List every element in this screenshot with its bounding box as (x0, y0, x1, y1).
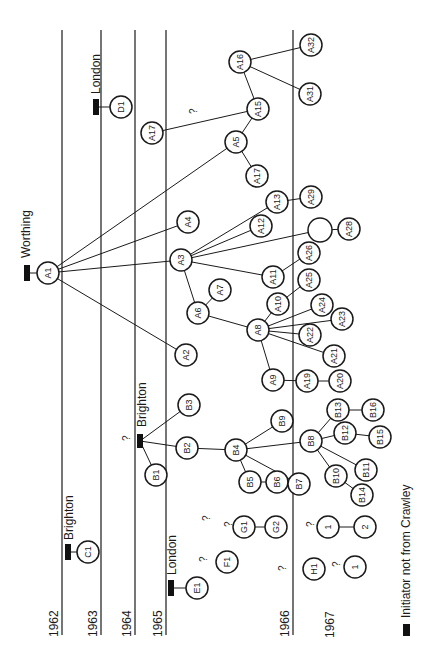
network-diagram: A1A2A3A4A5A6A7A8A9A10A11A12A13A15A16A17A… (0, 0, 423, 663)
svg-text:D1: D1 (116, 101, 126, 113)
svg-text:B6: B6 (272, 476, 282, 487)
svg-text:A24: A24 (317, 297, 327, 313)
year-label: 1962 (47, 610, 61, 637)
node-A12: A12 (250, 215, 272, 237)
node-B3: B3 (178, 394, 200, 416)
svg-text:B13: B13 (333, 402, 343, 418)
svg-text:B12: B12 (340, 425, 350, 441)
node-B6: B6 (266, 471, 288, 493)
svg-text:A26: A26 (304, 245, 314, 261)
unknown-marker: ? (331, 561, 342, 567)
node-B1: B1 (145, 464, 167, 486)
svg-text:A19: A19 (302, 373, 312, 389)
svg-text:A9: A9 (268, 374, 278, 385)
node-A17: A17 (141, 122, 163, 144)
year-label: 1966 (278, 610, 292, 637)
svg-text:B14: B14 (357, 487, 367, 503)
node-B15: B15 (369, 426, 391, 448)
edge (152, 109, 258, 133)
node-B9: B9 (271, 410, 293, 432)
svg-text:B8: B8 (306, 435, 316, 446)
edge (258, 319, 342, 330)
svg-text:A15: A15 (253, 101, 263, 117)
svg-text:A32: A32 (306, 37, 316, 53)
unknown-marker: ? (188, 108, 199, 114)
node-A32: A32 (300, 34, 322, 56)
node-A16: A16 (229, 51, 251, 73)
edge (48, 142, 236, 273)
node-D1: D1 (110, 96, 132, 118)
svg-text:1: 1 (350, 564, 360, 569)
origin-label: London (165, 535, 179, 575)
node-C1: C1 (77, 541, 99, 563)
svg-text:A10: A10 (273, 296, 283, 312)
origin-label: Brighton (62, 495, 76, 540)
node-B7: B7 (288, 473, 310, 495)
svg-text:B9: B9 (277, 415, 287, 426)
unknown-marker: ? (198, 556, 209, 562)
node-A6: A6 (187, 302, 209, 324)
legend-marker-icon (403, 624, 410, 636)
edge (48, 260, 181, 273)
svg-text:A1: A1 (43, 267, 53, 278)
node-A23: A23 (331, 308, 353, 330)
node-A9: A9 (262, 369, 284, 391)
edge (48, 222, 188, 273)
node-B4: B4 (225, 439, 247, 461)
node-A2: A2 (175, 344, 197, 366)
node-A21: A21 (323, 345, 345, 367)
svg-text:B1: B1 (151, 469, 161, 480)
node-A22: A22 (299, 324, 321, 346)
legend-label: Initiator not from Crawley (399, 485, 413, 618)
initiator-marker-icon (137, 434, 143, 448)
node-A25: A25 (298, 269, 320, 291)
node-B8: B8 (300, 430, 322, 452)
initiator-markers (24, 99, 174, 596)
origin-label: Worthing (19, 210, 33, 258)
svg-text:C1: C1 (83, 546, 93, 558)
edge (181, 260, 273, 277)
node-G2: G2 (265, 516, 287, 538)
node-B11: B11 (355, 459, 377, 481)
svg-text:B11: B11 (361, 462, 371, 477)
svg-text:H1: H1 (309, 563, 319, 575)
unknown-marker: ? (121, 435, 132, 441)
svg-text:A16: A16 (235, 54, 245, 70)
year-label: 1963 (86, 610, 100, 637)
year-label: 1965 (151, 610, 165, 637)
svg-text:E1: E1 (192, 582, 202, 593)
svg-text:B5: B5 (245, 476, 255, 487)
initiator-marker-icon (93, 99, 99, 115)
node-1: 1 (344, 556, 366, 578)
node-1: 1 (317, 516, 339, 538)
node-A15: A15 (247, 98, 269, 120)
svg-text:B16: B16 (368, 402, 378, 418)
svg-text:B7: B7 (294, 478, 304, 489)
svg-text:A8: A8 (253, 324, 263, 335)
svg-text:A6: A6 (193, 307, 203, 318)
svg-text:A20: A20 (335, 373, 345, 389)
node-E1: E1 (186, 577, 208, 599)
node-B16: B16 (362, 399, 384, 421)
svg-text:A3: A3 (176, 254, 186, 265)
node-A28: A28 (338, 218, 360, 240)
svg-text:G1: G1 (239, 521, 249, 533)
svg-text:A17: A17 (252, 168, 262, 184)
node-B5: B5 (239, 471, 261, 493)
svg-text:A13: A13 (272, 194, 282, 210)
edge (48, 273, 186, 355)
origin-label: London (89, 54, 103, 94)
unknown-marker: ? (201, 515, 212, 521)
svg-text:B15: B15 (375, 429, 385, 445)
svg-text:F1: F1 (222, 557, 232, 568)
svg-text:A21: A21 (329, 348, 339, 364)
node- (308, 218, 332, 242)
node-A26: A26 (298, 242, 320, 264)
node-G1: G1 (233, 516, 255, 538)
node-A20: A20 (329, 370, 351, 392)
node-A8: A8 (247, 319, 269, 341)
svg-text:1: 1 (323, 524, 333, 529)
svg-text:A12: A12 (256, 218, 266, 234)
node-A11: A11 (262, 266, 284, 288)
svg-text:B10: B10 (331, 468, 341, 484)
